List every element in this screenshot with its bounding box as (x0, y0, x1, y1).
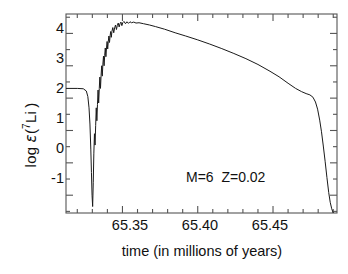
y-axis-title-text: log ε(7Li ) (22, 103, 39, 168)
y-axis-title: log ε(7Li ) (14, 35, 40, 235)
x-tick-label-6540: 65.40 (165, 218, 235, 233)
x-axis-title: time (in millions of years) (66, 243, 338, 259)
y-tick-label-2: 2 (38, 81, 64, 95)
y-tick-label-neg1: -1 (38, 171, 64, 185)
x-tick-label-6545: 65.45 (235, 218, 305, 233)
y-tick-label-3: 3 (38, 51, 64, 65)
x-tick-label-6535: 65.35 (95, 218, 165, 233)
y-tick-label-4: 4 (38, 21, 64, 35)
y-tick-label-0: 0 (38, 141, 64, 155)
chart-figure: log ε(7Li ) time (in millions of years) … (0, 0, 348, 274)
plot-annotation: M=6 Z=0.02 (186, 169, 265, 185)
y-tick-label-1: 1 (38, 111, 64, 125)
